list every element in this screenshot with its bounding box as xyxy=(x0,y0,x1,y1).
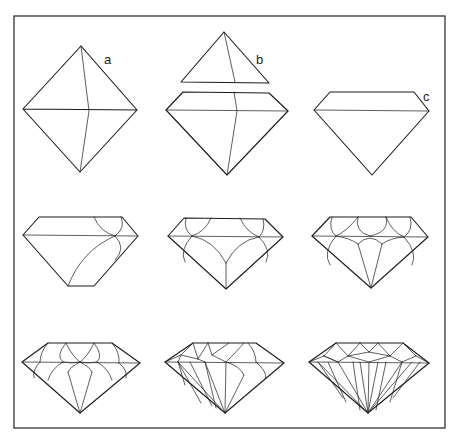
stage-4-facets xyxy=(23,217,138,286)
stage-5-facets xyxy=(168,218,283,289)
stage-4-first-facets xyxy=(23,217,138,286)
label-a: a xyxy=(104,52,112,67)
stage-7-outline xyxy=(22,343,140,413)
stage-6-pavilion-mains xyxy=(312,217,428,288)
stage-2-outline xyxy=(166,32,288,175)
label-c: c xyxy=(423,89,430,104)
stage-2-facets xyxy=(166,32,288,175)
stage-1-outline xyxy=(23,46,137,172)
stage-2-sawn xyxy=(166,32,288,175)
diamond-cutting-diagram: a b c xyxy=(0,0,456,444)
stage-5-more-facets xyxy=(168,218,283,289)
stage-3-outline xyxy=(314,92,429,175)
figure-frame xyxy=(14,16,445,428)
stage-3-facets xyxy=(314,110,429,111)
stage-5-outline xyxy=(168,218,283,289)
label-b: b xyxy=(256,52,263,67)
stage-8-partial-brilliant xyxy=(165,343,284,413)
stage-1-octahedron xyxy=(23,46,137,172)
stage-3-table xyxy=(314,92,429,175)
stage-7-stars-upper xyxy=(22,343,140,413)
stage-9-finished-brilliant xyxy=(309,343,429,413)
stage-8-facets xyxy=(165,343,284,413)
